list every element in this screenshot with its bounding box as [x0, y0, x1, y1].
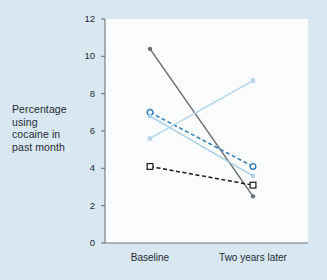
x-axis-category-label: Two years later	[193, 252, 313, 263]
series-marker	[147, 164, 153, 170]
series-marker	[251, 78, 255, 82]
series-marker	[148, 47, 152, 51]
y-axis-tick-label: 6	[77, 125, 95, 136]
series-marker	[250, 182, 256, 188]
series-marker	[148, 114, 152, 118]
series-marker	[251, 174, 255, 178]
slopegraph-chart: Percentage using cocaine in past month 0…	[0, 0, 327, 280]
x-axis-category-label: Baseline	[90, 252, 210, 263]
y-axis-tick-label: 0	[77, 237, 95, 248]
y-axis-tick-label: 12	[77, 13, 95, 24]
y-axis-title-line-1: Percentage	[12, 103, 104, 116]
series-marker	[251, 194, 255, 198]
series-marker	[250, 164, 256, 170]
y-axis-tick-label: 10	[77, 50, 95, 61]
series-marker	[148, 136, 152, 140]
y-axis-title-line-4: past month	[12, 141, 104, 154]
y-axis-tick-label: 2	[77, 200, 95, 211]
y-axis-tick-label: 8	[77, 88, 95, 99]
y-axis-tick-label: 4	[77, 162, 95, 173]
